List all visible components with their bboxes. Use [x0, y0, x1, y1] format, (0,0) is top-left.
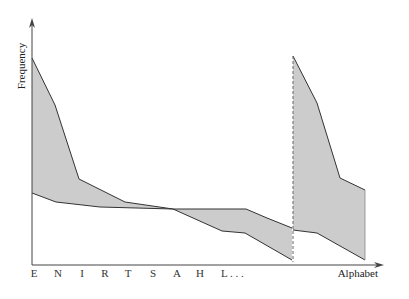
- tick-label-l-ellipsis: L . . .: [221, 267, 244, 279]
- shaded-difference-region-left: [32, 58, 292, 260]
- x-axis-label: Alphabet: [338, 267, 378, 279]
- tick-label-i: I: [80, 267, 84, 279]
- shaded-difference-region-right: [293, 56, 365, 260]
- tick-label-e: E: [31, 267, 38, 279]
- y-axis-label: Frequency: [15, 42, 27, 89]
- tick-label-a: A: [173, 267, 181, 279]
- frequency-diagram: Frequency Alphabet E N I R T S A H L . .…: [0, 0, 409, 299]
- tick-label-r: R: [101, 267, 109, 279]
- tick-label-h: H: [196, 267, 204, 279]
- tick-label-t: T: [125, 267, 132, 279]
- tick-label-n: N: [54, 267, 62, 279]
- tick-label-s: S: [150, 267, 156, 279]
